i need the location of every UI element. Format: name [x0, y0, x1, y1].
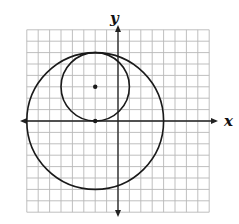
- y-axis-label: y: [109, 9, 120, 27]
- coordinate-plane: x y: [0, 0, 239, 224]
- coordinate-plane-figure: x y: [0, 0, 239, 224]
- x-axis-label: x: [223, 112, 234, 130]
- x-axis-arrow-left-icon: [20, 118, 27, 124]
- large-circle-center-dot: [93, 119, 97, 123]
- y-axis-arrow-down-icon: [115, 210, 121, 217]
- small-circle-center-dot: [93, 85, 97, 89]
- x-axis-arrow-right-icon: [211, 118, 218, 124]
